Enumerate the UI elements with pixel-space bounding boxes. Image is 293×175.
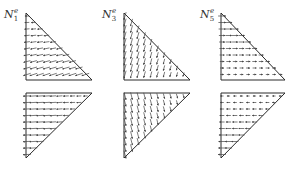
vector-arrow bbox=[157, 72, 159, 78]
vector-arrow bbox=[30, 61, 37, 63]
triangle-outline bbox=[26, 13, 92, 80]
panel-n1-upper-triangle bbox=[23, 13, 92, 80]
vector-arrow bbox=[150, 113, 152, 119]
vector-arrow bbox=[56, 61, 63, 63]
vector-arrow bbox=[137, 32, 139, 39]
vector-arrow bbox=[131, 51, 133, 58]
vector-arrow bbox=[144, 112, 146, 118]
vector-arrow bbox=[150, 46, 152, 52]
vector-arrow bbox=[157, 59, 159, 65]
vector-arrow bbox=[56, 73, 63, 75]
vector-arrow bbox=[24, 54, 30, 55]
vector-arrow bbox=[50, 48, 56, 49]
label-n3: N3e bbox=[102, 8, 116, 23]
vector-arrow bbox=[31, 35, 36, 36]
vector-arrow bbox=[150, 93, 152, 99]
vector-arrow bbox=[131, 99, 133, 106]
triangle-outline bbox=[221, 13, 285, 80]
vector-arrow bbox=[150, 100, 152, 106]
vector-arrow bbox=[157, 100, 158, 106]
vector-arrow bbox=[170, 107, 171, 112]
vector-arrow bbox=[137, 39, 139, 46]
vector-arrow bbox=[163, 65, 164, 70]
vector-arrow bbox=[24, 35, 29, 36]
panel-n3-upper-triangle bbox=[124, 12, 190, 80]
vector-arrow bbox=[43, 73, 50, 75]
vector-arrow bbox=[44, 42, 50, 43]
vector-arrow bbox=[24, 61, 31, 63]
vector-arrow bbox=[43, 54, 49, 55]
vector-arrow bbox=[144, 65, 146, 71]
vector-arrow bbox=[137, 125, 139, 132]
vector-arrow bbox=[163, 93, 164, 98]
vector-arrow bbox=[144, 58, 146, 64]
vector-arrow bbox=[131, 25, 133, 32]
vector-arrow bbox=[131, 112, 133, 119]
panel-n5-upper-triangle bbox=[218, 13, 285, 80]
vector-arrow bbox=[37, 67, 44, 69]
vector-arrow bbox=[37, 48, 43, 49]
vector-arrow bbox=[137, 65, 139, 72]
panel-n1-lower-triangle bbox=[23, 93, 92, 158]
vector-arrow bbox=[157, 119, 158, 125]
vector-arrow bbox=[157, 113, 158, 119]
vector-arrow bbox=[144, 119, 146, 125]
panel-n5-lower-triangle bbox=[218, 93, 285, 158]
vector-field-figure bbox=[0, 0, 293, 175]
label-n5-sub: 5 bbox=[210, 15, 214, 23]
vector-arrow bbox=[37, 42, 43, 43]
vector-arrow bbox=[44, 48, 50, 49]
vector-arrow bbox=[131, 32, 133, 39]
vector-arrow bbox=[150, 59, 152, 65]
vector-arrow bbox=[50, 67, 57, 69]
vector-arrow bbox=[157, 52, 159, 58]
vector-arrow bbox=[24, 67, 31, 69]
vector-arrow bbox=[30, 54, 36, 55]
label-n1-sup: e bbox=[14, 7, 18, 15]
vector-arrow bbox=[150, 106, 152, 112]
label-n1-base: N bbox=[4, 8, 14, 21]
vector-arrow bbox=[157, 106, 158, 112]
vector-arrow bbox=[23, 73, 30, 75]
vector-arrow bbox=[150, 119, 152, 125]
vector-arrow bbox=[131, 105, 133, 112]
vector-arrow bbox=[163, 59, 164, 64]
vector-arrow bbox=[157, 65, 159, 71]
vector-arrow bbox=[50, 61, 57, 63]
vector-arrow bbox=[144, 125, 146, 131]
label-n3-base: N bbox=[102, 8, 112, 21]
vector-arrow bbox=[144, 93, 146, 99]
label-n3-sub: 3 bbox=[112, 15, 116, 23]
vector-arrow bbox=[69, 67, 76, 69]
vector-arrow bbox=[56, 67, 63, 69]
vector-arrow bbox=[131, 118, 133, 125]
vector-arrow bbox=[176, 100, 177, 104]
vector-arrow bbox=[63, 67, 70, 69]
vector-arrow bbox=[137, 119, 139, 126]
vector-arrow bbox=[183, 94, 184, 98]
vector-arrow bbox=[163, 106, 164, 111]
vector-arrow bbox=[137, 58, 139, 65]
triangle-outline bbox=[124, 93, 190, 158]
vector-arrow bbox=[144, 52, 146, 58]
label-n5-sup: e bbox=[210, 7, 214, 15]
vector-arrow bbox=[137, 112, 139, 119]
vector-arrow bbox=[163, 113, 164, 118]
vector-arrow bbox=[163, 72, 164, 77]
vector-arrow bbox=[31, 42, 37, 43]
vector-arrow bbox=[131, 125, 133, 132]
vector-arrow bbox=[50, 54, 56, 55]
vector-arrow bbox=[131, 58, 133, 65]
vector-arrow bbox=[56, 54, 62, 55]
vector-arrow bbox=[36, 73, 43, 75]
vector-arrow bbox=[37, 61, 44, 63]
vector-arrow bbox=[137, 99, 139, 106]
vector-arrow bbox=[150, 52, 152, 58]
vector-arrow bbox=[24, 42, 30, 43]
vector-arrow bbox=[170, 100, 171, 105]
vector-arrow bbox=[131, 71, 133, 78]
vector-arrow bbox=[30, 73, 37, 75]
vector-arrow bbox=[37, 35, 42, 36]
label-n1-sub: 1 bbox=[14, 15, 18, 23]
vector-arrow bbox=[137, 52, 139, 59]
